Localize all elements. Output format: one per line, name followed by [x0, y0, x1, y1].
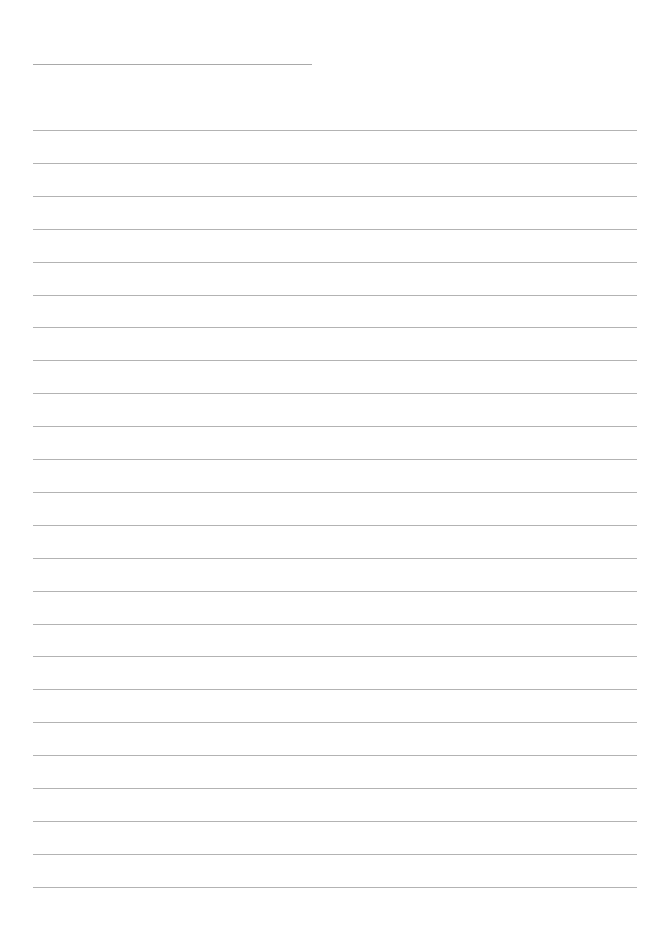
ruled-line: [33, 295, 637, 296]
ruled-line: [33, 130, 637, 131]
ruled-line: [33, 722, 637, 723]
ruled-line: [33, 525, 637, 526]
ruled-line: [33, 459, 637, 460]
ruled-lines: [0, 0, 662, 925]
ruled-line: [33, 788, 637, 789]
ruled-line: [33, 689, 637, 690]
ruled-line: [33, 821, 637, 822]
ruled-line: [33, 854, 637, 855]
lined-paper-page: [0, 0, 662, 925]
ruled-line: [33, 360, 637, 361]
ruled-line: [33, 755, 637, 756]
ruled-line: [33, 163, 637, 164]
ruled-line: [33, 426, 637, 427]
ruled-line: [33, 196, 637, 197]
ruled-line: [33, 591, 637, 592]
ruled-line: [33, 656, 637, 657]
ruled-line: [33, 327, 637, 328]
ruled-line: [33, 887, 637, 888]
ruled-line: [33, 262, 637, 263]
ruled-line: [33, 492, 637, 493]
ruled-line: [33, 393, 637, 394]
ruled-line: [33, 558, 637, 559]
ruled-line: [33, 229, 637, 230]
ruled-line: [33, 624, 637, 625]
